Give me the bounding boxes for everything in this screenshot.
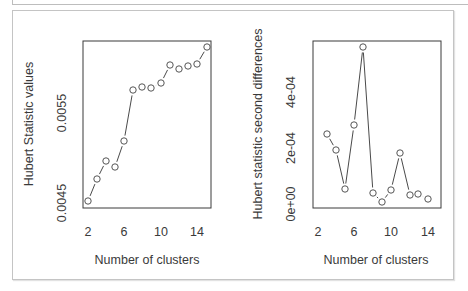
data-point [130, 87, 136, 93]
series-segment [363, 52, 372, 187]
data-point [176, 66, 182, 72]
data-point [333, 147, 339, 153]
left-panel: 261014 0.00450.0055 Number of clusters H… [22, 41, 211, 267]
x-tick-label: 10 [384, 225, 398, 239]
data-point [158, 80, 164, 86]
right-y-axis-title: Hubert statistic second differences [251, 29, 265, 220]
left-y-axis-title: Hubert Statistic values [22, 62, 36, 186]
right-panel: 261014 0e+002e-044e-04 Number of cluster… [251, 29, 441, 267]
data-point [415, 191, 421, 197]
series-segment [330, 139, 334, 145]
left-x-axis-title: Number of clusters [95, 253, 200, 267]
data-point [407, 192, 413, 198]
right-series [324, 44, 431, 205]
data-point [85, 198, 91, 204]
series-segment [377, 197, 378, 198]
left-series [85, 44, 210, 204]
series-segment [392, 158, 398, 184]
left-plot-frame [83, 41, 211, 208]
x-tick-label: 6 [351, 225, 358, 239]
data-point [103, 158, 109, 164]
data-point [112, 164, 118, 170]
x-tick-label: 2 [315, 225, 322, 239]
series-segment [117, 146, 122, 162]
y-tick-label: 2e-04 [284, 132, 298, 164]
series-segment [355, 52, 363, 119]
series-segment [125, 95, 132, 135]
data-point [351, 122, 357, 128]
series-segment [346, 130, 353, 183]
data-point [204, 44, 210, 50]
right-x-axis-title: Number of clusters [324, 253, 429, 267]
series-segment [385, 194, 387, 197]
series-segment [401, 158, 408, 189]
data-point [388, 187, 394, 193]
series-segment [337, 155, 344, 183]
right-plot-frame [313, 41, 441, 208]
series-segment [200, 52, 204, 60]
left-x-axis-ticks: 261014 [85, 225, 204, 239]
series-segment [163, 70, 167, 78]
data-point [342, 186, 348, 192]
x-tick-label: 14 [190, 225, 204, 239]
left-y-axis-ticks: 0.00450.0055 [55, 94, 69, 222]
x-tick-label: 6 [121, 225, 128, 239]
data-point [194, 61, 200, 67]
y-tick-label: 0e+00 [284, 186, 298, 221]
data-point [360, 44, 366, 50]
data-point [379, 199, 385, 205]
data-point [139, 84, 145, 90]
y-tick-label: 0.0055 [55, 94, 69, 132]
data-point [185, 63, 191, 69]
x-tick-label: 2 [85, 225, 92, 239]
data-point [167, 62, 173, 68]
x-tick-label: 14 [421, 225, 435, 239]
data-point [148, 85, 154, 91]
series-segment [99, 166, 103, 174]
y-tick-label: 4e-04 [284, 76, 298, 108]
data-point [94, 176, 100, 182]
data-point [370, 190, 376, 196]
data-point [324, 131, 330, 137]
data-point [425, 196, 431, 202]
y-tick-label: 0.0045 [55, 184, 69, 222]
series-segment [90, 184, 95, 196]
data-point [397, 150, 403, 156]
x-tick-label: 10 [154, 225, 168, 239]
right-x-axis-ticks: 261014 [315, 225, 435, 239]
data-point [121, 138, 127, 144]
right-y-axis-ticks: 0e+002e-044e-04 [284, 76, 298, 222]
